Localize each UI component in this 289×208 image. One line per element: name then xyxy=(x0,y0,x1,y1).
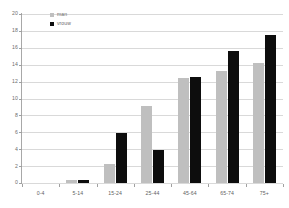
x-axis-tick-label: 45-64 xyxy=(170,190,210,196)
y-axis-tick-mark xyxy=(19,48,22,49)
x-axis-tick-mark xyxy=(171,184,172,187)
y-axis-tick-mark xyxy=(19,82,22,83)
bar-vrouw-75+[interactable] xyxy=(265,35,276,183)
x-axis-tick-mark xyxy=(283,184,284,187)
chart-legend: man vrouw xyxy=(50,11,71,29)
bar-man-45-64[interactable] xyxy=(178,78,189,183)
y-axis-tick-mark xyxy=(19,14,22,15)
x-axis-tick-label: 5-14 xyxy=(58,190,98,196)
bar-group xyxy=(208,14,245,183)
y-axis-tick-mark xyxy=(19,166,22,167)
x-axis-tick-label: 15-24 xyxy=(95,190,135,196)
y-axis-tick-mark xyxy=(19,31,22,32)
bar-group xyxy=(22,14,59,183)
bar-group xyxy=(246,14,283,183)
x-axis-tick-mark xyxy=(208,184,209,187)
y-axis-tick-label: 12 xyxy=(0,79,18,84)
bar-group xyxy=(134,14,171,183)
y-axis-tick-label: 8 xyxy=(0,113,18,118)
y-axis-tick-label: 2 xyxy=(0,164,18,169)
plot-area xyxy=(22,14,283,183)
y-axis-tick-label: 4 xyxy=(0,147,18,152)
bar-vrouw-45-64[interactable] xyxy=(190,77,201,183)
bar-man-25-44[interactable] xyxy=(141,106,152,183)
x-axis-tick-label: 65-74 xyxy=(207,190,247,196)
legend-item-man[interactable]: man xyxy=(50,11,71,18)
y-axis-tick-label: 14 xyxy=(0,62,18,67)
x-axis-tick-mark xyxy=(134,184,135,187)
bar-man-75+[interactable] xyxy=(253,63,264,183)
legend-item-vrouw[interactable]: vrouw xyxy=(50,20,71,27)
legend-label-vrouw: vrouw xyxy=(57,21,71,26)
gridline xyxy=(22,183,283,184)
bar-man-65-74[interactable] xyxy=(216,71,227,183)
y-axis-tick-label: 0 xyxy=(0,180,18,185)
legend-swatch-icon-man xyxy=(50,13,54,17)
x-axis-tick-label: 75+ xyxy=(244,190,284,196)
y-axis-tick-label: 6 xyxy=(0,130,18,135)
bar-vrouw-25-44[interactable] xyxy=(153,150,164,183)
bar-vrouw-15-24[interactable] xyxy=(116,133,127,183)
bar-vrouw-5-14[interactable] xyxy=(78,180,89,183)
bar-group xyxy=(97,14,134,183)
x-axis-tick-mark xyxy=(22,184,23,187)
bar-group xyxy=(171,14,208,183)
y-axis-tick-label: 18 xyxy=(0,28,18,33)
y-axis-tick-label: 16 xyxy=(0,45,18,50)
x-axis-tick-label: 0-4 xyxy=(21,190,61,196)
bar-chart: 02468101214161820 0-45-1415-2425-4445-64… xyxy=(0,0,289,208)
y-axis-tick-mark xyxy=(19,115,22,116)
bar-man-5-14[interactable] xyxy=(66,180,77,183)
y-axis-tick-mark xyxy=(19,149,22,150)
x-axis-tick-mark xyxy=(59,184,60,187)
legend-label-man: man xyxy=(57,12,67,17)
y-axis-tick-label: 20 xyxy=(0,11,18,16)
bar-vrouw-65-74[interactable] xyxy=(228,51,239,183)
y-axis-tick-mark xyxy=(19,132,22,133)
x-axis-tick-label: 25-44 xyxy=(133,190,173,196)
x-axis-tick-mark xyxy=(246,184,247,187)
bar-group xyxy=(59,14,96,183)
x-axis-tick-mark xyxy=(97,184,98,187)
y-axis-tick-mark xyxy=(19,99,22,100)
bar-man-15-24[interactable] xyxy=(104,164,115,183)
legend-swatch-icon-vrouw xyxy=(50,22,54,26)
y-axis-tick-label: 10 xyxy=(0,96,18,101)
y-axis-tick-mark xyxy=(19,65,22,66)
